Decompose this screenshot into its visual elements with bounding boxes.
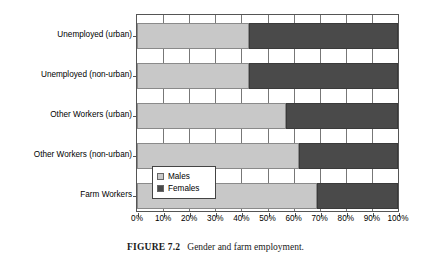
y-axis-label: Unemployed (non-urban) [6, 70, 136, 80]
y-axis-tick [133, 196, 137, 197]
legend-swatch-males [157, 173, 164, 180]
bar-segment-females [249, 63, 398, 89]
bar-segment-males [137, 23, 249, 49]
legend-swatch-females [157, 185, 164, 192]
y-axis-tick [133, 36, 137, 37]
bar-segment-males [137, 103, 286, 129]
bar-row [137, 63, 398, 89]
y-axis-tick [133, 156, 137, 157]
x-axis-labels: 0%10%20%30%40%50%60%70%80%90%100% [136, 214, 399, 228]
figure-caption-text: Gender and farm employment. [187, 242, 304, 252]
bar-segment-females [299, 143, 398, 169]
bar-segment-females [286, 103, 398, 129]
chart-legend: MalesFemales [152, 166, 216, 199]
figure-caption: FIGURE 7.2Gender and farm employment. [0, 242, 431, 252]
bar-segment-males [137, 63, 249, 89]
y-axis-label: Farm Workers [6, 190, 136, 200]
y-axis-label: Other Workers (urban) [6, 110, 136, 120]
legend-item: Males [157, 171, 211, 182]
legend-label: Males [168, 172, 190, 181]
y-axis-tick [133, 116, 137, 117]
figure-caption-label: FIGURE 7.2 [127, 242, 180, 252]
legend-label: Females [168, 184, 199, 193]
y-axis-labels: Unemployed (urban)Unemployed (non-urban)… [0, 14, 136, 212]
bar-segment-females [317, 183, 398, 209]
y-axis-label: Other Workers (non-urban) [6, 150, 136, 160]
y-axis-label: Unemployed (urban) [6, 30, 136, 40]
x-axis-label: 100% [378, 214, 418, 223]
bar-segment-females [249, 23, 398, 49]
y-axis-tick [133, 76, 137, 77]
figure-container: Unemployed (urban)Unemployed (non-urban)… [0, 0, 431, 267]
bar-row [137, 103, 398, 129]
bar-row [137, 23, 398, 49]
legend-item: Females [157, 183, 211, 194]
